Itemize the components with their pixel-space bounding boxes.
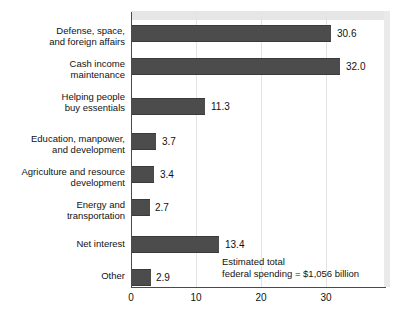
category-label: Education, manpower, and development: [0, 133, 131, 155]
bar: [132, 133, 156, 150]
category-label-line1: Agriculture and resource: [0, 166, 125, 177]
gridline-20: [261, 12, 262, 287]
category-label: Other: [0, 270, 131, 281]
category-label-line1: Education, manpower,: [0, 133, 125, 144]
bar-value-label: 3.7: [162, 133, 176, 150]
x-tick-30: 30: [320, 292, 331, 303]
category-label-line2: transportation: [0, 210, 125, 221]
bar-value-label: 30.6: [337, 25, 356, 42]
bar: [132, 58, 340, 75]
bar-chart: Defense, space, and foreign affairs 30.6…: [0, 0, 398, 324]
category-label: Agriculture and resource development: [0, 166, 131, 188]
category-label-line1: Net interest: [0, 238, 125, 249]
bar: [132, 199, 150, 216]
annotation-line1: Estimated total: [222, 256, 359, 268]
x-tick-0: 0: [128, 292, 134, 303]
plot-top-band: [131, 11, 385, 20]
category-label-line1: Helping people: [0, 91, 125, 102]
category-label-line2: and development: [0, 144, 125, 155]
bar-value-label: 11.3: [211, 98, 230, 115]
bar-value-label: 3.4: [160, 166, 174, 183]
bar-value-label: 32.0: [346, 58, 365, 75]
bar-value-label: 2.7: [155, 199, 169, 216]
bar-value-label: 13.4: [225, 236, 244, 253]
category-label: Helping people buy essentials: [0, 91, 131, 113]
category-label-line2: development: [0, 177, 125, 188]
bar: [132, 236, 219, 253]
category-label-line2: and foreign affairs: [0, 36, 125, 47]
chart-annotation: Estimated total federal spending = $1,05…: [222, 256, 359, 279]
category-label-line1: Energy and: [0, 199, 125, 210]
category-label-line1: Defense, space,: [0, 25, 125, 36]
annotation-line2: federal spending = $1,056 billion: [222, 268, 359, 280]
category-label-line2: buy essentials: [0, 102, 125, 113]
x-tick-20: 20: [255, 292, 266, 303]
category-label: Cash income maintenance: [0, 58, 131, 80]
x-tick-10: 10: [190, 292, 201, 303]
category-label-line1: Cash income: [0, 58, 125, 69]
category-label-line1: Other: [0, 270, 125, 281]
bar: [132, 269, 151, 286]
bar: [132, 25, 331, 42]
x-axis-line: [131, 287, 386, 288]
category-label: Energy and transportation: [0, 199, 131, 221]
bar-value-label: 2.9: [156, 269, 170, 286]
gridline-30: [326, 12, 327, 287]
category-label: Defense, space, and foreign affairs: [0, 25, 131, 47]
bar: [132, 98, 205, 115]
bar: [132, 166, 154, 183]
category-label-line2: maintenance: [0, 69, 125, 80]
plot-right-band: [384, 11, 390, 287]
category-label: Net interest: [0, 238, 131, 249]
